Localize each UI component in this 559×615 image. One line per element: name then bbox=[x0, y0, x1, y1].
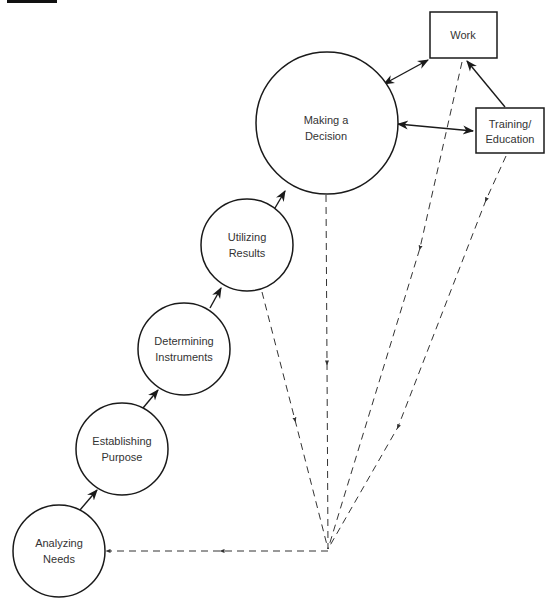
feedback-line-decision bbox=[326, 195, 328, 549]
box-label: Work bbox=[450, 29, 476, 41]
node-label: Instruments bbox=[155, 351, 213, 363]
node-label: Making a bbox=[304, 114, 350, 126]
node-analyzing-needs: Analyzing Needs bbox=[13, 505, 105, 597]
arrow-purpose-to-instruments bbox=[143, 390, 158, 408]
career-decision-diagram: Analyzing Needs Establishing Purpose Det… bbox=[0, 0, 559, 615]
arrow-needs-to-purpose bbox=[80, 490, 97, 510]
node-label: Decision bbox=[305, 130, 347, 142]
node-determining-instruments: Determining Instruments bbox=[138, 303, 230, 395]
arrow-decision-training bbox=[398, 124, 473, 131]
box-training-education: Training/ Education bbox=[476, 108, 544, 153]
node-label: Analyzing bbox=[35, 537, 83, 549]
node-label: Results bbox=[229, 247, 266, 259]
feedback-line-results bbox=[262, 292, 328, 549]
box-label: Training/ bbox=[489, 118, 532, 130]
node-label: Purpose bbox=[102, 451, 143, 463]
node-label: Establishing bbox=[92, 435, 151, 447]
box-work: Work bbox=[430, 12, 497, 58]
node-label: Determining bbox=[154, 335, 213, 347]
node-establishing-purpose: Establishing Purpose bbox=[76, 403, 168, 495]
box-label: Education bbox=[486, 133, 535, 145]
node-label: Utilizing bbox=[228, 231, 267, 243]
node-making-a-decision: Making a Decision bbox=[256, 52, 398, 194]
arrow-training-to-work bbox=[467, 61, 505, 107]
feedback-line-training bbox=[328, 156, 506, 549]
node-utilizing-results: Utilizing Results bbox=[201, 199, 293, 291]
arrow-results-to-decision bbox=[275, 191, 285, 208]
arrow-instruments-to-results bbox=[210, 288, 221, 308]
arrow-decision-work bbox=[384, 60, 428, 84]
node-label: Needs bbox=[43, 553, 75, 565]
